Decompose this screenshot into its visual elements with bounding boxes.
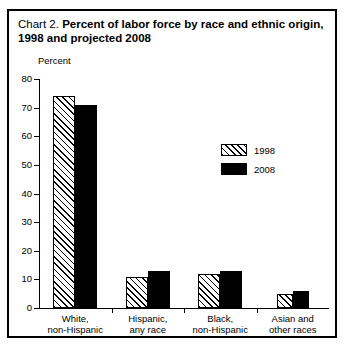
y-axis-tick-mark — [34, 308, 39, 309]
y-axis-tick-mark — [34, 136, 39, 137]
y-axis-tick-label: 80 — [21, 73, 32, 84]
bar-1998-asian-and-other-races — [277, 294, 293, 308]
chart-legend: 1998 2008 — [221, 144, 275, 182]
y-axis-tick-mark — [34, 222, 39, 223]
y-axis-tick-label: 70 — [21, 102, 32, 113]
bar-1998-black-non-hispanic — [198, 274, 220, 308]
bar-1998-white-non-hispanic — [53, 96, 75, 308]
legend-swatch-2008-icon — [221, 163, 247, 175]
plot-area: 01020304050607080 White,non-HispanicHisp… — [39, 79, 329, 308]
category-label-line: White, — [39, 313, 112, 324]
category-label-line: non-Hispanic — [184, 324, 257, 335]
y-axis-tick-label: 10 — [21, 273, 32, 284]
chart-title-prefix: Chart 2. — [18, 18, 59, 30]
category-label-line: any race — [112, 324, 185, 335]
category-label: Black,non-Hispanic — [184, 313, 257, 335]
bar-2008-white-non-hispanic — [75, 105, 97, 308]
category-label-line: Black, — [184, 313, 257, 324]
category-label: Asian andother races — [257, 313, 330, 335]
category-label: Hispanic,any race — [112, 313, 185, 335]
category-label-line: Asian and — [257, 313, 330, 324]
chart-container: Chart 2. Percent of labor force by race … — [7, 9, 337, 338]
category-label-line: other races — [257, 324, 330, 335]
legend-label-2008: 2008 — [254, 164, 275, 175]
category-label-line: non-Hispanic — [39, 324, 112, 335]
y-axis-tick-mark — [34, 194, 39, 195]
y-axis-unit-label: Percent — [38, 55, 71, 66]
y-axis-tick-label: 0 — [27, 302, 32, 313]
legend-swatch-1998-icon — [221, 144, 247, 156]
category-label: White,non-Hispanic — [39, 313, 112, 335]
y-axis-tick-mark — [34, 251, 39, 252]
bar-2008-asian-and-other-races — [293, 291, 309, 308]
y-axis-tick-label: 20 — [21, 245, 32, 256]
bar-1998-hispanic-any-race — [126, 277, 148, 308]
legend-item: 2008 — [221, 163, 275, 175]
y-axis-tick-label: 30 — [21, 216, 32, 227]
chart-title: Chart 2. Percent of labor force by race … — [18, 17, 328, 45]
y-axis-tick-mark — [34, 108, 39, 109]
y-axis-tick-label: 50 — [21, 159, 32, 170]
bar-2008-hispanic-any-race — [148, 271, 170, 308]
y-axis-tick-label: 40 — [21, 188, 32, 199]
legend-label-1998: 1998 — [254, 145, 275, 156]
bar-2008-black-non-hispanic — [220, 271, 242, 308]
y-axis-tick-mark — [34, 165, 39, 166]
y-axis-line — [39, 79, 40, 308]
chart-title-main: Percent of labor force by race and ethni… — [18, 18, 324, 44]
y-axis-tick-mark — [34, 79, 39, 80]
y-axis-tick-mark — [34, 279, 39, 280]
y-axis-tick-label: 60 — [21, 130, 32, 141]
legend-item: 1998 — [221, 144, 275, 156]
category-label-line: Hispanic, — [112, 313, 185, 324]
